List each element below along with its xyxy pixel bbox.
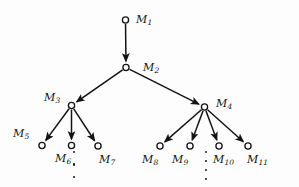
node-circle-m4[interactable] [201,104,207,110]
node-label-subscript: 8 [153,158,158,167]
node-label-base: M [55,152,66,165]
ellipsis-dot [205,169,207,171]
ellipsis-dot [205,160,207,162]
node-circle-m11[interactable] [245,143,251,149]
node-label-m11: M11 [247,154,268,165]
node-label-base: M [213,153,224,166]
right-vertical-dots [205,151,208,180]
left-vertical-dots [73,151,76,178]
edge-group [46,24,244,142]
node-circle-m7[interactable] [95,143,101,149]
node-circle-m3[interactable] [68,102,74,108]
node-label-subscript: 1 [147,18,152,27]
node-label-base: M [216,97,227,110]
ellipsis-dot [205,178,207,180]
node-label-subscript: 4 [227,102,232,111]
ellipsis-dot [73,151,75,153]
node-circle-m10[interactable] [216,143,222,149]
node-label-base: M [136,13,147,26]
node-circle-m8[interactable] [157,143,163,149]
node-label-m10: M10 [213,154,234,165]
node-label-base: M [44,91,55,104]
edge-m3-to-m5 [46,109,69,141]
node-label-m2: M2 [143,62,159,73]
node-label-subscript: 10 [224,158,234,167]
edge-m4-to-m11 [208,110,244,142]
node-label-m4: M4 [216,98,232,109]
node-label-m1: M1 [136,14,152,25]
node-label-subscript: 3 [55,96,60,105]
edge-m4-to-m8 [165,110,202,142]
ellipsis-dot [73,163,75,165]
node-label-base: M [172,153,183,166]
node-label-m3: M3 [44,92,60,103]
node-label-subscript: 9 [183,158,188,167]
node-label-m7: M7 [99,154,115,165]
node-label-base: M [143,61,154,74]
node-label-subscript: 11 [258,158,268,167]
node-label-subscript: 5 [24,132,29,141]
edge-m2-to-m3 [77,70,123,102]
node-label-base: M [99,153,110,166]
node-label-subscript: 6 [66,157,71,166]
node-circle-m9[interactable] [187,143,193,149]
node-label-m8: M8 [142,154,158,165]
node-label-subscript: 7 [110,158,115,167]
node-label-m9: M9 [172,154,188,165]
node-circle-m5[interactable] [39,142,45,148]
node-group [39,17,251,149]
node-circle-m1[interactable] [122,17,128,23]
edge-m4-to-m9 [192,111,203,140]
node-label-subscript: 2 [154,66,159,75]
node-label-base: M [13,127,24,140]
node-label-m5: M5 [13,128,29,139]
ellipsis-dot [205,151,207,153]
edge-m2-to-m4 [130,69,199,104]
ellipsis-dot [73,176,75,178]
edge-m4-to-m10 [206,111,217,140]
node-label-base: M [142,153,153,166]
node-label-m6: M6 [55,153,71,164]
tree-diagram-figure: M1M2M3M4M5M6M7M8M9M10M11 [0,0,299,187]
edge-m3-to-m7 [74,109,95,141]
node-label-base: M [247,153,258,166]
node-circle-m6[interactable] [68,142,74,148]
node-circle-m2[interactable] [123,64,129,70]
